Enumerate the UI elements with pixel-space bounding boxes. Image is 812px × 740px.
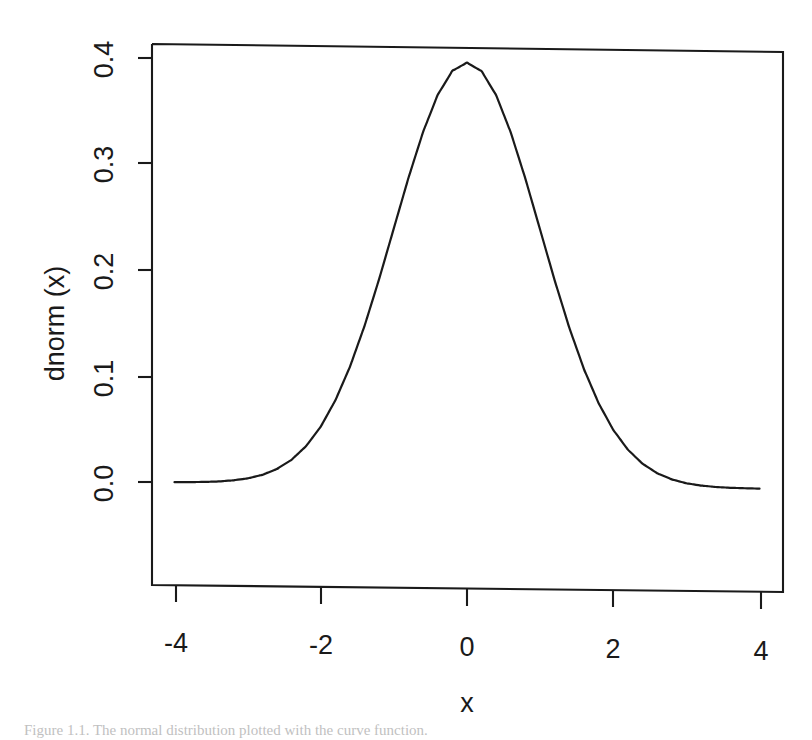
x-tick-label-1: -2 <box>291 632 351 659</box>
figure-panel: 0.0 0.1 0.2 0.3 0.4 dnorm (x) -4 -2 0 2 … <box>0 0 812 740</box>
y-axis-ticks <box>138 58 152 482</box>
y-tick-label-4: 0.4 <box>91 34 118 86</box>
y-axis-title: dnorm (x) <box>42 234 69 414</box>
y-tick-label-1: 0.1 <box>91 353 118 405</box>
x-axis-title: x <box>437 690 497 717</box>
x-tick-label-2: 0 <box>437 634 497 661</box>
normal-density-curve <box>175 63 760 489</box>
plot-box-frame <box>152 44 783 592</box>
y-tick-label-0: 0.0 <box>91 458 118 510</box>
x-tick-label-0: -4 <box>146 630 206 657</box>
plot-canvas <box>0 0 812 740</box>
x-tick-label-3: 2 <box>583 636 643 663</box>
x-tick-label-4: 4 <box>731 638 791 665</box>
figure-caption: Figure 1.1. The normal distribution plot… <box>24 722 794 740</box>
y-tick-label-2: 0.2 <box>91 246 118 298</box>
y-tick-label-3: 0.3 <box>91 139 118 191</box>
